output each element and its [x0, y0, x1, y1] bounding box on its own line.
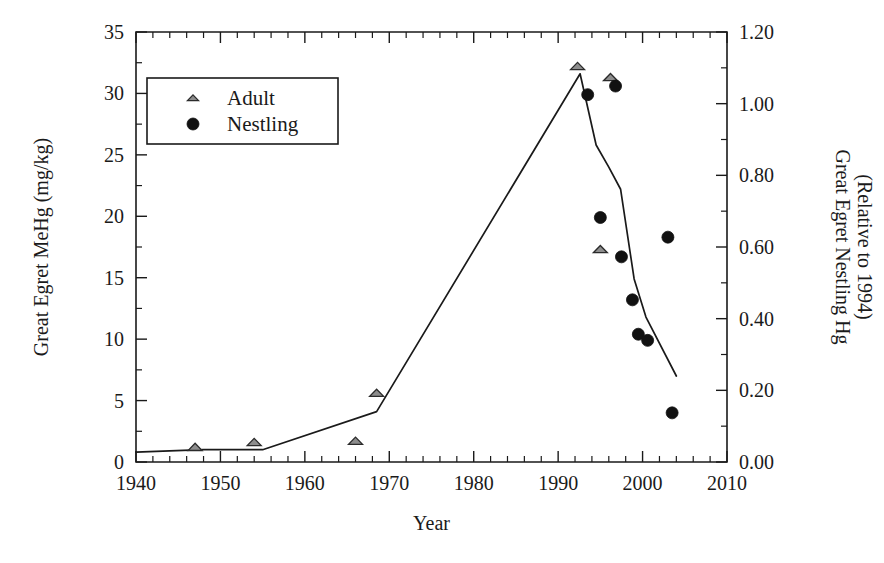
y-tick-label: 35	[104, 21, 124, 43]
y2-axis-title-line1: Great Egret Nestling Hg	[831, 150, 854, 345]
x-tick-label: 1990	[538, 472, 578, 494]
adult-marker	[349, 437, 363, 444]
y-tick-label: 0	[114, 451, 124, 473]
x-tick-label: 1940	[116, 472, 156, 494]
y2-tick-label: 1.00	[739, 93, 774, 115]
x-tick-label: 1980	[454, 472, 494, 494]
y2-tick-label: 0.20	[739, 379, 774, 401]
nestling-marker	[610, 80, 622, 92]
y2-tick-label: 0.80	[739, 164, 774, 186]
adult-marker	[571, 62, 585, 69]
x-tick-label: 1950	[200, 472, 240, 494]
x-tick-label: 2010	[707, 472, 747, 494]
y2-tick-label: 0.40	[739, 308, 774, 330]
y-tick-label: 25	[104, 144, 124, 166]
adult-marker	[247, 438, 261, 445]
adult-marker	[603, 73, 617, 80]
nestling-marker	[582, 89, 594, 101]
y-tick-label: 15	[104, 267, 124, 289]
x-tick-label: 1960	[285, 472, 325, 494]
legend-nestling-icon	[187, 118, 199, 130]
adult-marker	[593, 245, 607, 252]
adult-marker	[188, 443, 202, 450]
y-tick-label: 20	[104, 205, 124, 227]
x-axis-title: Year	[413, 512, 450, 534]
y-axis-title: Great Egret MeHg (mg/kg)	[30, 138, 53, 356]
x-tick-label: 2000	[623, 472, 663, 494]
chart-page: 1940195019601970198019902000201005101520…	[0, 0, 884, 563]
y2-tick-label: 0.00	[739, 451, 774, 473]
legend-label-nestling: Nestling	[227, 112, 299, 136]
nestling-marker	[666, 407, 678, 419]
y-tick-label: 5	[114, 390, 124, 412]
nestling-marker	[626, 294, 638, 306]
nestling-marker	[615, 251, 627, 263]
nestling-marker	[642, 334, 654, 346]
legend-label-adult: Adult	[227, 86, 275, 110]
x-tick-label: 1970	[369, 472, 409, 494]
nestling-marker	[594, 212, 606, 224]
nestling-marker	[662, 231, 674, 243]
adult-marker	[370, 389, 384, 396]
y-tick-label: 10	[104, 328, 124, 350]
y2-tick-label: 0.60	[739, 236, 774, 258]
y-tick-label: 30	[104, 82, 124, 104]
y2-tick-label: 1.20	[739, 21, 774, 43]
egret-mehg-chart: 1940195019601970198019902000201005101520…	[0, 0, 884, 563]
y2-axis-title-line2: (Relative to 1994)	[853, 174, 876, 320]
